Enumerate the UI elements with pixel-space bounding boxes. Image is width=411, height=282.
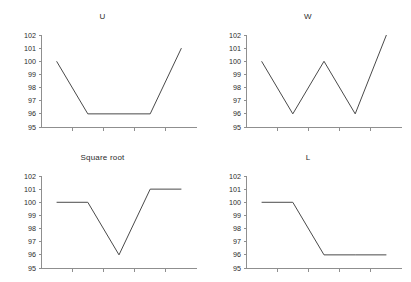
plot-area-u: 1021011009998979695: [0, 0, 205, 141]
y-axis-tick-label: 96: [28, 250, 36, 259]
data-series-line: [262, 202, 387, 255]
y-axis-tick-label: 96: [28, 109, 36, 118]
y-axis-tick-label: 96: [233, 109, 241, 118]
y-axis-tick-label: 95: [28, 264, 36, 273]
y-axis-tick-label: 101: [229, 44, 241, 53]
y-axis-tick-label: 98: [233, 224, 241, 233]
plot-area-w: 1021011009998979695: [205, 0, 411, 141]
y-axis-tick-label: 99: [233, 70, 241, 79]
y-axis-tick-label: 97: [233, 237, 241, 246]
y-axis-tick-label: 95: [233, 264, 241, 273]
y-axis-tick-label: 99: [28, 70, 36, 79]
chart-panel-w: W 1021011009998979695: [205, 0, 411, 141]
chart-panel-square-root: Square root 1021011009998979695: [0, 141, 205, 282]
y-axis-tick-label: 99: [28, 211, 36, 220]
plot-area-square-root: 1021011009998979695: [0, 141, 205, 282]
y-axis-tick-label: 101: [24, 44, 36, 53]
y-axis-tick-label: 97: [28, 237, 36, 246]
y-axis-tick-label: 102: [24, 31, 36, 40]
y-axis-tick-label: 97: [28, 96, 36, 105]
y-axis-tick-label: 100: [229, 198, 241, 207]
y-axis-tick-label: 98: [28, 224, 36, 233]
y-axis-tick-label: 98: [233, 83, 241, 92]
data-series-line: [57, 48, 182, 114]
data-series-line: [262, 35, 387, 114]
chart-grid: U 1021011009998979695 W 1021011009998979…: [0, 0, 411, 282]
y-axis-tick-label: 101: [24, 185, 36, 194]
plot-area-l: 1021011009998979695: [205, 141, 411, 282]
y-axis-tick-label: 102: [229, 172, 241, 181]
chart-panel-l: L 1021011009998979695: [205, 141, 411, 282]
y-axis-tick-label: 102: [24, 172, 36, 181]
y-axis-tick-label: 100: [24, 57, 36, 66]
y-axis-tick-label: 95: [233, 123, 241, 132]
y-axis-tick-label: 98: [28, 83, 36, 92]
chart-panel-u: U 1021011009998979695: [0, 0, 205, 141]
y-axis-tick-label: 96: [233, 250, 241, 259]
y-axis-tick-label: 100: [229, 57, 241, 66]
y-axis-tick-label: 102: [229, 31, 241, 40]
data-series-line: [57, 189, 182, 255]
y-axis-tick-label: 100: [24, 198, 36, 207]
y-axis-tick-label: 95: [28, 123, 36, 132]
y-axis-tick-label: 101: [229, 185, 241, 194]
y-axis-tick-label: 97: [233, 96, 241, 105]
y-axis-tick-label: 99: [233, 211, 241, 220]
